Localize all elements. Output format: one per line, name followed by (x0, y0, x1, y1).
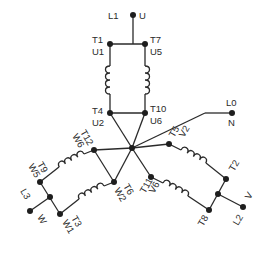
label-t10: T10 (150, 103, 166, 114)
terminal-t3 (57, 211, 63, 217)
coil-t6-t3 (77, 182, 104, 199)
label-w: W (35, 213, 49, 226)
label-v: V (242, 189, 255, 201)
coil-t11-t8 (163, 179, 190, 196)
junction-v (215, 191, 221, 197)
label-u1: U1 (92, 46, 104, 57)
label-l2: L2 (230, 212, 245, 227)
terminal-l0 (229, 110, 235, 116)
terminal-l1 (130, 12, 136, 18)
label-l1: L1 (108, 10, 119, 21)
label-u6: U6 (150, 115, 162, 126)
terminal-l2 (240, 204, 246, 210)
label-t8: T8 (195, 213, 210, 228)
terminal-t9 (37, 179, 43, 185)
star-point (129, 145, 135, 151)
terminal-t1 (107, 41, 113, 47)
terminal-t8 (206, 207, 212, 213)
label-l0: L0 (226, 97, 237, 108)
coil-t5-t2 (181, 146, 208, 163)
label-l3: L3 (18, 187, 33, 202)
label-t2: T2 (226, 158, 241, 173)
wye-motor-diagram: L1 U T1 U1 T7 U5 T4 U2 T10 U6 L0 N (0, 0, 265, 253)
terminal-t10 (142, 110, 148, 116)
label-u5: U5 (150, 46, 162, 57)
coil-t7-t10 (145, 66, 150, 94)
terminal-t12 (91, 147, 97, 153)
phase-u: L1 U T1 U1 T7 U5 T4 U2 T10 U6 (92, 10, 166, 148)
neutral: L0 N (132, 97, 237, 148)
label-t7: T7 (150, 34, 161, 45)
label-t1: T1 (92, 34, 103, 45)
terminal-t2 (223, 176, 229, 182)
coil-t1-t4 (106, 66, 111, 94)
terminal-t4 (107, 110, 113, 116)
label-u: U (139, 10, 146, 21)
terminal-t7 (142, 41, 148, 47)
terminal-l3 (27, 208, 33, 214)
terminal-t6 (111, 179, 117, 185)
label-t4: T4 (92, 105, 103, 116)
label-n: N (228, 117, 235, 128)
junction-w (47, 194, 53, 200)
coil-t12-t9 (57, 150, 84, 167)
label-u2: U2 (92, 117, 104, 128)
phase-w: T12 W6 T9 W5 T6 W2 T3 W1 L3 W (18, 128, 136, 236)
terminal-t5 (166, 141, 172, 147)
